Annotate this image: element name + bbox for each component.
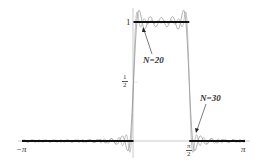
n30-arrow [197,104,206,130]
n20-arrowhead [142,27,146,32]
n20-arrow [144,30,152,54]
pi-label: π [241,145,246,154]
half-den: 2 [122,82,128,89]
neg-pi-label: −π [16,145,27,154]
one-tick-label: 1 [126,18,131,27]
partial-sum-n30 [22,12,245,152]
n20-label: N=20 [143,56,164,65]
pi-half-label: π 2 [186,143,192,158]
half-tick-label: 1 2 [122,74,128,89]
fourier-gibbs-chart [0,0,262,166]
pihalf-den: 2 [186,151,192,158]
n30-label: N=30 [200,94,221,103]
series-layer [22,10,245,152]
n30-arrowhead [195,128,199,133]
